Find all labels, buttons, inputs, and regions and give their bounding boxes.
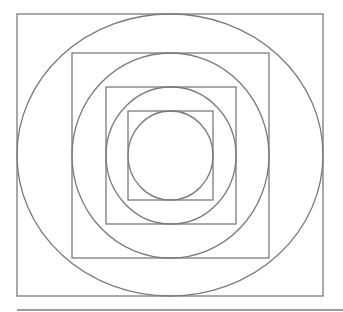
circle-1 [17, 14, 323, 296]
square-1 [17, 14, 323, 296]
square-2 [72, 53, 269, 258]
nested-shapes-diagram [0, 0, 343, 312]
circle-4 [128, 111, 213, 200]
square-3 [106, 87, 236, 224]
circle-3 [106, 87, 236, 224]
shape-group [17, 14, 343, 310]
circle-2 [72, 53, 269, 258]
